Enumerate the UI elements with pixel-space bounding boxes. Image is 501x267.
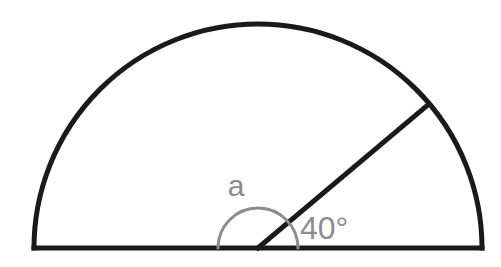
angle-label-a: a <box>228 169 245 202</box>
diagram-canvas: a 40° <box>0 0 501 267</box>
angle-label-40-degrees: 40° <box>300 210 348 246</box>
diagram-background <box>0 0 501 267</box>
semicircle-diagram: a 40° <box>0 0 501 267</box>
